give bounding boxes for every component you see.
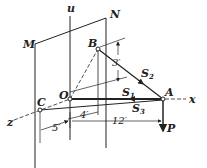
s2-arrow <box>138 80 143 84</box>
statics-diagram: u N M B O C A x z P S1 S2 S3 3′ 4′ 5′ 12… <box>0 0 207 168</box>
joint-o <box>68 97 72 101</box>
dim-label-3: 3′ <box>112 57 121 68</box>
dim-guide-bottom <box>70 77 127 92</box>
label-s1: S1 <box>122 86 135 100</box>
dim-label-5: 5′ <box>52 122 61 133</box>
label-c: C <box>37 96 46 109</box>
label-s3: S3 <box>132 102 145 116</box>
label-x: x <box>188 93 196 106</box>
label-a: A <box>164 86 174 99</box>
label-m: M <box>22 38 36 51</box>
diagram-svg: u N M B O C A x z P S1 S2 S3 3′ 4′ 5′ 12… <box>0 0 207 168</box>
label-z: z <box>6 116 14 129</box>
label-p: P <box>166 122 176 135</box>
dim-guide-top <box>100 38 125 47</box>
label-u: u <box>67 2 75 15</box>
line-ob <box>70 49 98 99</box>
label-n: N <box>109 8 121 21</box>
label-b: B <box>87 37 97 50</box>
dim-label-12: 12′ <box>112 115 128 126</box>
dim-label-4: 4′ <box>79 109 89 120</box>
label-o: O <box>59 89 69 102</box>
label-s2: S2 <box>141 67 154 81</box>
